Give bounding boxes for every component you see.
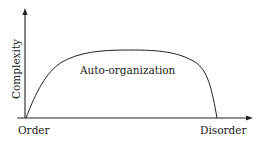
y-axis-label: Complexity (10, 39, 22, 99)
x-axis-arrow-icon (246, 116, 253, 121)
x-axis-end-label: Disorder (200, 124, 246, 136)
curve-label: Auto-organization (80, 64, 175, 76)
complexity-curve (26, 50, 217, 118)
y-axis-arrow-icon (23, 8, 28, 15)
x-axis-start-label: Order (18, 124, 50, 136)
